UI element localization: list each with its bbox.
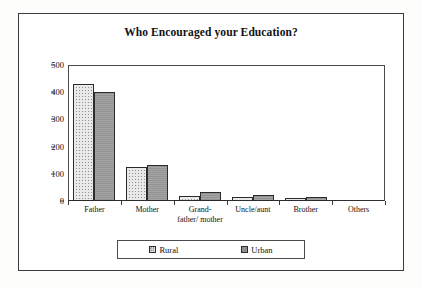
y-axis-tick-mark bbox=[51, 65, 55, 66]
y-axis-tick-mark bbox=[51, 146, 55, 147]
bar-group bbox=[68, 65, 121, 201]
bar-group bbox=[279, 65, 332, 201]
bar-rural bbox=[73, 84, 94, 201]
x-axis-labels: FatherMotherGrand-father/ motherUncle/au… bbox=[68, 205, 385, 225]
bar-rural bbox=[232, 197, 253, 201]
bar-rural bbox=[179, 196, 200, 201]
chart-legend: RuralUrban bbox=[117, 240, 305, 259]
bar-urban bbox=[306, 197, 327, 201]
bar-group bbox=[226, 65, 279, 201]
x-axis-label-line1: Grand- bbox=[189, 205, 212, 214]
y-axis-tick: 100 bbox=[51, 169, 68, 179]
y-axis-tick-mark bbox=[51, 119, 55, 120]
x-axis-label: Mother bbox=[121, 205, 174, 225]
bar-urban bbox=[200, 192, 221, 201]
x-axis-label: Father bbox=[68, 205, 121, 225]
x-axis-label-line1: Others bbox=[348, 205, 369, 214]
y-axis-tick: 0 bbox=[60, 196, 68, 206]
x-axis-label: Grand-father/ mother bbox=[174, 205, 227, 225]
chart-title: Who Encouraged your Education? bbox=[18, 26, 404, 38]
x-axis-label: Uncle/aunt bbox=[226, 205, 279, 225]
chart-screenshot: Who Encouraged your Education? No. of su… bbox=[0, 0, 422, 288]
legend-swatch-urban bbox=[241, 246, 248, 253]
x-axis-label: Brother bbox=[279, 205, 332, 225]
x-axis-label-line1: Brother bbox=[294, 205, 318, 214]
legend-label: Urban bbox=[251, 245, 272, 255]
x-axis-tick-mark bbox=[385, 201, 386, 205]
legend-item-urban: Urban bbox=[241, 245, 272, 255]
bar-rural bbox=[126, 167, 147, 201]
legend-swatch-rural bbox=[149, 246, 156, 253]
plot-wrapper: No. of subjects 0100200300400500 bbox=[68, 65, 385, 201]
x-axis-label-line1: Father bbox=[84, 205, 104, 214]
bar-group bbox=[174, 65, 227, 201]
y-axis-tick: 400 bbox=[51, 87, 68, 97]
x-axis-label: Others bbox=[332, 205, 385, 225]
x-axis-label-line2: father/ mother bbox=[174, 215, 227, 225]
bar-groups bbox=[68, 65, 385, 201]
y-axis-tick: 500 bbox=[51, 60, 68, 70]
y-axis-tick-mark bbox=[60, 201, 64, 202]
bar-urban bbox=[147, 165, 168, 201]
bar-group bbox=[332, 65, 385, 201]
y-axis-tick-mark bbox=[51, 173, 55, 174]
x-axis-label-line1: Uncle/aunt bbox=[235, 205, 270, 214]
x-axis-label-line1: Mother bbox=[135, 205, 159, 214]
bar-urban bbox=[253, 195, 274, 201]
legend-item-rural: Rural bbox=[149, 245, 178, 255]
y-axis-tick: 200 bbox=[51, 142, 68, 152]
y-axis-tick-mark bbox=[51, 92, 55, 93]
bar-rural bbox=[285, 198, 306, 201]
y-axis-tick: 300 bbox=[51, 114, 68, 124]
legend-label: Rural bbox=[159, 245, 178, 255]
bar-urban bbox=[94, 92, 115, 201]
bar-group bbox=[121, 65, 174, 201]
